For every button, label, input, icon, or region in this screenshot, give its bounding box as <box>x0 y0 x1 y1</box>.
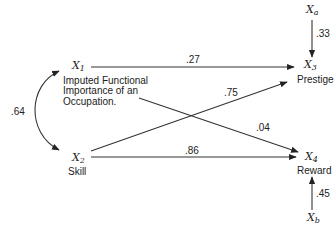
coef-x2-x3: .75 <box>224 87 238 98</box>
node-xb-symbol: Xb <box>307 212 320 227</box>
path-diagram-lines <box>0 0 336 233</box>
node-x4-label: Reward <box>297 165 331 176</box>
node-x2-symbol: X2 <box>72 152 85 167</box>
node-x2-label: Skill <box>68 166 86 177</box>
node-x1-symbol: X1 <box>72 60 85 75</box>
node-x3-label: Prestige <box>297 74 334 85</box>
edge-x1-x2-correlation <box>35 71 59 150</box>
coef-x1-x2: .64 <box>11 106 25 117</box>
node-x1-label-line2: Importance of an <box>63 85 138 96</box>
coef-x1-x3: .27 <box>186 54 200 65</box>
coef-x1-x4: .04 <box>256 122 270 133</box>
node-x3-symbol: X3 <box>304 59 317 74</box>
coef-xb-x4: .45 <box>316 188 330 199</box>
node-x4-symbol: X4 <box>305 151 318 166</box>
coef-xa-x3: .33 <box>316 28 330 39</box>
node-xa-symbol: Xa <box>306 4 319 19</box>
coef-x2-x4: .86 <box>185 145 199 156</box>
node-x1-label-line3: Occupation. <box>63 96 116 107</box>
